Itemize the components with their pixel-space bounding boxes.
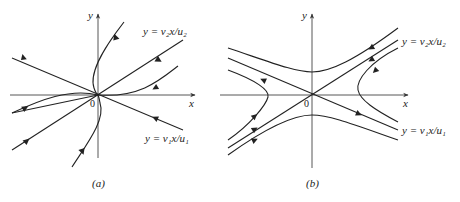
origin-label: 0 — [90, 98, 95, 109]
eigenline-v1-label: y = v₁x/u₁ — [401, 124, 446, 136]
x-axis-label: x — [188, 97, 194, 109]
panel-b-caption: (b) — [306, 177, 319, 190]
eigenline-v1 — [228, 58, 398, 130]
panel-a-caption: (a) — [92, 177, 105, 190]
trajectory-curve-right — [98, 66, 178, 95]
origin-label: 0 — [304, 98, 309, 109]
phase-portrait-figure: y x 0 y = v₂x/u₂ y = v₁x/u₁ (a) — [0, 0, 460, 202]
panel-a: y x 0 y = v₂x/u₂ y = v₁x/u₁ (a) — [10, 9, 195, 190]
y-axis-label: y — [301, 9, 307, 21]
y-axis-label: y — [87, 9, 93, 21]
panel-b: y x 0 y = v₂x/u₂ y = v₁x/u₁ (b) — [220, 9, 446, 190]
eigenline-v1-label: y = v₁x/u₁ — [144, 132, 189, 144]
eigenline-v2-label: y = v₂x/u₂ — [142, 25, 187, 37]
x-axis-label: x — [402, 97, 408, 109]
trajectory-hyperbola-right — [358, 48, 398, 122]
trajectory-curve-bottom — [72, 95, 101, 167]
trajectory-hyperbola-bottom — [228, 115, 398, 155]
eigenline-v2-label: y = v₂x/u₂ — [401, 35, 446, 47]
